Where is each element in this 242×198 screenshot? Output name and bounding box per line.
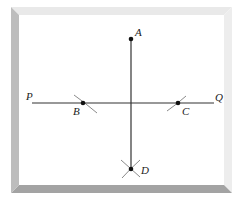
point-D xyxy=(129,167,134,172)
frame-bottom-bevel xyxy=(11,185,232,193)
label-A: A xyxy=(134,26,142,38)
label-Q: Q xyxy=(215,91,223,103)
point-A xyxy=(129,37,134,42)
frame-right-bevel xyxy=(224,7,232,193)
point-B xyxy=(81,101,86,106)
construction-diagram: ABCDPQ xyxy=(0,0,242,198)
label-B: B xyxy=(73,105,80,117)
point-C xyxy=(176,101,181,106)
beveled-frame xyxy=(11,7,232,193)
frame-left-bevel xyxy=(11,7,19,193)
frame-canvas xyxy=(19,15,224,185)
label-C: C xyxy=(182,105,190,117)
label-D: D xyxy=(140,164,149,176)
frame-top-bevel xyxy=(11,7,232,15)
label-P: P xyxy=(25,90,33,102)
